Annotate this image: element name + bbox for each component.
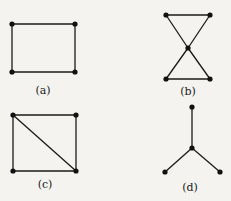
graph-figure: (a) (b) (c) (d) (0, 0, 231, 201)
edge-b-v2-v3 (188, 15, 210, 48)
vertex-a-v1 (9, 21, 14, 26)
vertex-a-v4 (9, 69, 14, 74)
graph-label-a: (a) (35, 84, 50, 97)
edge-b-v1-v3 (166, 15, 188, 48)
vertex-a-v3 (72, 69, 77, 74)
edge-b-v3-v4 (166, 48, 188, 79)
vertex-d-v3 (162, 169, 167, 174)
graph-c: (c) (10, 112, 78, 191)
vertex-d-v1 (189, 104, 194, 109)
graph-label-b: (b) (180, 85, 196, 98)
vertex-b-v4 (163, 76, 168, 81)
graph-label-c: (c) (38, 178, 53, 191)
edge-d-v2-v4 (192, 148, 220, 172)
vertex-c-v4 (10, 168, 15, 173)
graph-d: (d) (162, 104, 222, 194)
vertex-a-v2 (72, 21, 77, 26)
vertex-d-v4 (217, 169, 222, 174)
vertex-b-v5 (207, 76, 212, 81)
vertex-b-v1 (163, 12, 168, 17)
vertex-c-v1 (10, 112, 15, 117)
vertex-d-v2 (189, 145, 194, 150)
edge-c-v1-v3 (13, 115, 76, 171)
vertex-b-v2 (207, 12, 212, 17)
vertex-c-v2 (73, 112, 78, 117)
graph-label-d: (d) (182, 181, 198, 194)
edge-b-v3-v5 (188, 48, 210, 79)
graph-a: (a) (9, 21, 77, 97)
vertex-b-v3 (185, 45, 190, 50)
edge-d-v2-v3 (165, 148, 192, 172)
graph-b: (b) (163, 12, 212, 98)
vertex-c-v3 (73, 168, 78, 173)
